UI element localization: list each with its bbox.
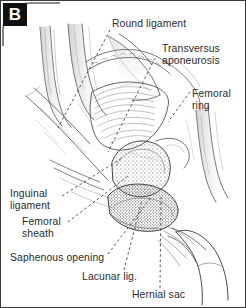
label-femoral-ring-line1: Femoral — [192, 88, 231, 100]
leader-femoral-sheath — [68, 176, 128, 222]
label-round-ligament: Round ligament — [112, 18, 186, 30]
leader-femoral-ring — [168, 92, 190, 122]
leader-inguinal-ligament — [62, 158, 122, 196]
leader-transversus-aponeurosis — [108, 58, 155, 152]
label-femoral-sheath-line1: Femoral — [22, 216, 61, 228]
label-inguinal-ligament-line1: Inguinal — [10, 188, 47, 200]
label-saphenous-opening: Saphenous opening — [10, 252, 104, 264]
figure-panel-b: B Round ligament Transversus aponeurosis… — [0, 0, 246, 308]
label-lacunar-ligament: Lacunar lig. — [82, 271, 137, 283]
leader-saphenous-opening — [108, 196, 152, 254]
label-femoral-ring-line2: ring — [192, 100, 210, 112]
label-inguinal-ligament-line2: ligament — [10, 200, 50, 212]
panel-label-badge: B — [3, 3, 27, 26]
label-transversus-line1: Transversus — [162, 43, 220, 55]
label-femoral-sheath-line2: sheath — [22, 228, 54, 240]
label-transversus-line2: aponeurosis — [162, 55, 220, 67]
leader-lacunar-ligament — [124, 200, 142, 270]
label-hernial-sac: Hernial sac — [132, 289, 185, 301]
leader-hernial-sac — [160, 196, 161, 288]
